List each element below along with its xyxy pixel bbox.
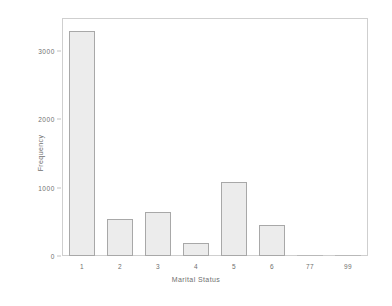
bar-chart: 0 1000 2000 3000 1 2 3 4 5 6 77 99 Marit… [0, 0, 392, 306]
bar-6 [259, 225, 286, 256]
x-tick-label-99: 99 [344, 263, 352, 270]
x-tick-label-4: 4 [194, 263, 198, 270]
bar-5 [221, 182, 248, 256]
y-axis-title: Frequency [37, 135, 44, 172]
x-tick-label-3: 3 [156, 263, 160, 270]
bar-4 [183, 243, 210, 256]
bars-layer [63, 19, 367, 256]
bar-2 [107, 219, 134, 256]
bar-3 [145, 212, 172, 256]
bar-99 [335, 255, 362, 256]
y-tick-label-2000: 2000 [38, 116, 62, 123]
x-tick-label-1: 1 [80, 263, 84, 270]
y-tick-label-1000: 1000 [38, 184, 62, 191]
x-axis-title: Marital Status [0, 276, 392, 283]
x-tick-label-2: 2 [118, 263, 122, 270]
x-axis: 1 2 3 4 5 6 77 99 [63, 257, 367, 277]
y-tick-label-3000: 3000 [38, 48, 62, 55]
x-tick-label-6: 6 [270, 263, 274, 270]
bar-77 [297, 255, 324, 256]
y-tick-label-0: 0 [51, 253, 62, 260]
x-tick-label-5: 5 [232, 263, 236, 270]
bar-1 [69, 31, 96, 256]
x-tick-label-77: 77 [306, 263, 314, 270]
